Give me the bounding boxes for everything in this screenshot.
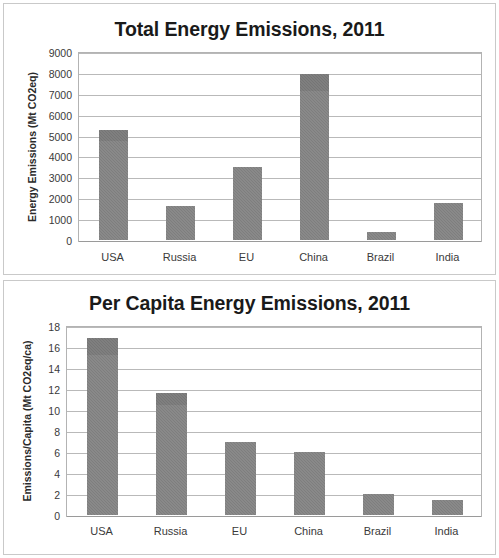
y-tick-label: 1000 bbox=[24, 215, 72, 226]
x-tick-label-eu: EU bbox=[213, 251, 280, 263]
x-tick-label-brazil: Brazil bbox=[343, 525, 412, 537]
bar-russia[interactable] bbox=[166, 206, 196, 240]
y-tick-label: 6000 bbox=[24, 111, 72, 122]
bar-china[interactable] bbox=[294, 452, 324, 515]
bar-usa[interactable] bbox=[99, 130, 129, 240]
page-title-total: Total Energy Emissions, 2011 bbox=[4, 18, 495, 41]
bar-slot bbox=[147, 54, 214, 240]
x-tick-label-eu: EU bbox=[205, 525, 274, 537]
y-tick-label: 9000 bbox=[24, 48, 72, 59]
y-tick-label: 2 bbox=[12, 490, 60, 501]
y-tick-label: 18 bbox=[12, 322, 60, 333]
bar-slot bbox=[275, 328, 344, 515]
y-tick-label: 16 bbox=[12, 343, 60, 354]
x-tick-label-russia: Russia bbox=[136, 525, 205, 537]
bar-shade-artifact bbox=[99, 130, 129, 141]
bar-china[interactable] bbox=[300, 74, 330, 240]
bar-eu[interactable] bbox=[225, 442, 255, 516]
y-tick-label: 5000 bbox=[24, 132, 72, 143]
bar-brazil[interactable] bbox=[363, 494, 393, 515]
bar-slot bbox=[80, 54, 147, 240]
bar-slot bbox=[413, 328, 482, 515]
bar-russia[interactable] bbox=[156, 393, 186, 515]
bar-slot bbox=[344, 328, 413, 515]
gridline bbox=[67, 516, 481, 517]
bar-slot bbox=[415, 54, 482, 240]
y-tick-label: 12 bbox=[12, 385, 60, 396]
x-tick-label-brazil: Brazil bbox=[347, 251, 414, 263]
bar-usa[interactable] bbox=[87, 338, 117, 515]
y-tick-label: 14 bbox=[12, 364, 60, 375]
y-tick-label: 0 bbox=[12, 511, 60, 522]
x-tick-label-usa: USA bbox=[67, 525, 136, 537]
page-title-capita: Per Capita Energy Emissions, 2011 bbox=[4, 292, 495, 315]
y-tick-label: 10 bbox=[12, 406, 60, 417]
x-tick-label-china: China bbox=[274, 525, 343, 537]
bar-slot bbox=[348, 54, 415, 240]
bar-shade-artifact bbox=[300, 74, 330, 91]
x-tick-label-china: China bbox=[280, 251, 347, 263]
bar-series-capita bbox=[68, 328, 480, 515]
chart-panel-per-capita-energy-emissions: Per Capita Energy Emissions, 2011 Emissi… bbox=[3, 280, 496, 555]
y-tick-label: 3000 bbox=[24, 173, 72, 184]
y-tick-label: 4 bbox=[12, 469, 60, 480]
y-tick-label: 7000 bbox=[24, 90, 72, 101]
bar-slot bbox=[214, 54, 281, 240]
y-tick-label: 0 bbox=[24, 236, 72, 247]
x-tick-label-russia: Russia bbox=[146, 251, 213, 263]
bar-shade-artifact bbox=[156, 393, 186, 405]
chart-page: Total Energy Emissions, 2011 Energy Emis… bbox=[0, 0, 499, 558]
bar-brazil[interactable] bbox=[367, 232, 397, 240]
bar-slot bbox=[281, 54, 348, 240]
plot-area-capita bbox=[66, 326, 482, 517]
bar-india[interactable] bbox=[434, 203, 464, 240]
y-tick-label: 6 bbox=[12, 448, 60, 459]
bar-india[interactable] bbox=[432, 500, 462, 515]
chart-panel-total-energy-emissions: Total Energy Emissions, 2011 Energy Emis… bbox=[3, 3, 496, 275]
bar-slot bbox=[68, 328, 137, 515]
plot-area-total bbox=[78, 52, 482, 242]
bar-shade-artifact bbox=[87, 338, 117, 356]
x-tick-label-india: India bbox=[412, 525, 481, 537]
bar-slot bbox=[137, 328, 206, 515]
x-tick-label-india: India bbox=[414, 251, 481, 263]
gridline bbox=[79, 241, 481, 242]
bar-series-total bbox=[80, 54, 480, 240]
bar-eu[interactable] bbox=[233, 167, 263, 240]
y-tick-label: 8000 bbox=[24, 69, 72, 80]
x-tick-label-usa: USA bbox=[79, 251, 146, 263]
y-tick-label: 4000 bbox=[24, 152, 72, 163]
bar-slot bbox=[206, 328, 275, 515]
y-tick-label: 8 bbox=[12, 427, 60, 438]
y-tick-label: 2000 bbox=[24, 194, 72, 205]
